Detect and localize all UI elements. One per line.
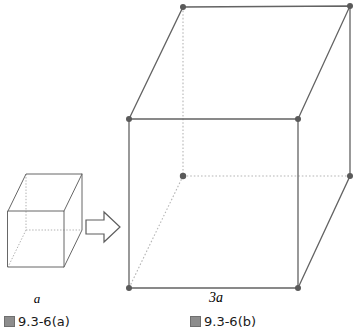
vertex-front-bottom-right [295, 285, 301, 291]
small-hidden-edge-diagonal [8, 230, 26, 267]
large-cube-edge-label: 3a [180, 290, 252, 306]
vertex-front-top-right [295, 116, 301, 122]
caption-figure-b: 9.3-6(b) [190, 314, 256, 329]
caption-figure-a: 9.3-6(a) [4, 314, 70, 329]
vertex-front-bottom-left [126, 285, 132, 291]
cube-figure-svg [0, 0, 358, 334]
cjk-glyph-icon [4, 316, 15, 327]
right-arrow-icon [86, 212, 120, 242]
cjk-glyph-icon [190, 316, 201, 327]
large-cube-right-face [298, 6, 350, 288]
vertex-front-top-left [126, 116, 132, 122]
vertex-back-top-right [347, 3, 353, 9]
large-cube-front-face [129, 119, 298, 288]
large-cube-visible-edges [129, 6, 350, 288]
small-cube [8, 174, 82, 267]
small-cube-front-face [8, 211, 64, 267]
vertex-back-bottom-left-hidden [180, 173, 186, 179]
small-cube-visible-edges [8, 174, 82, 267]
large-cube-vertices [126, 3, 353, 291]
large-cube-top-face [129, 6, 350, 119]
caption-figure-a-text: 9.3-6(a) [18, 314, 70, 329]
large-cube [126, 3, 353, 291]
vertex-back-bottom-right [347, 173, 353, 179]
small-cube-edge-label: a [0, 291, 74, 307]
large-hidden-edge-diagonal [129, 176, 183, 288]
caption-figure-b-text: 9.3-6(b) [204, 314, 256, 329]
vertex-back-top-left [180, 4, 186, 10]
small-cube-right-face [64, 174, 82, 267]
small-cube-top-face [8, 174, 82, 211]
